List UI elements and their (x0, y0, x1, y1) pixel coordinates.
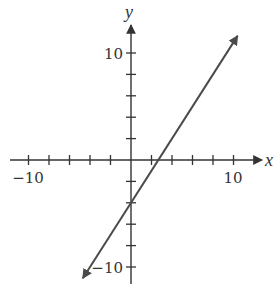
y-tick-label-max: 10 (104, 45, 123, 63)
x-tick-label-min: −10 (12, 169, 44, 187)
y-tick-label-min: −10 (91, 259, 123, 277)
y-axis-label: y (123, 2, 133, 22)
coordinate-plane: x y −10 10 10 −10 (0, 0, 275, 291)
x-tick-label-max: 10 (223, 169, 242, 187)
x-axis-label: x (264, 150, 273, 170)
plotted-line (83, 36, 238, 278)
